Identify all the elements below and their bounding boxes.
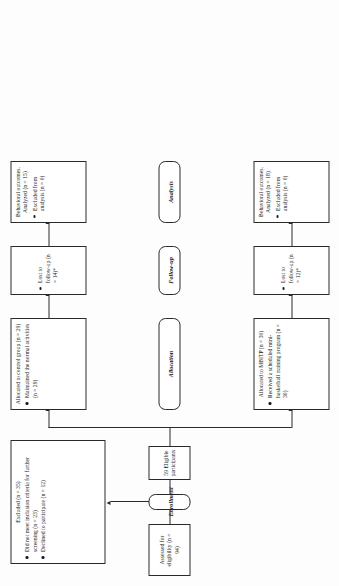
- list-item: Received a scheduled mini-basketball tra…: [266, 323, 288, 405]
- list-item: Maintained the normal activities (n = 29…: [23, 323, 38, 405]
- intervention-allocation-header: Allocated to MBITP (n = 30): [257, 323, 264, 405]
- stage-label-followup-text: Follow-up: [166, 257, 173, 283]
- box-assessed-for-eligibility: Assessed for eligibility (n = 94): [148, 524, 190, 576]
- control-allocation-list: Maintained the normal activities (n = 29…: [23, 323, 38, 405]
- connector-trunk-to-control: [48, 410, 49, 428]
- list-item: Did not meet inclusion criteria for furt…: [23, 445, 38, 559]
- intervention-analysis-header: Behavioral outcomes. Analyzed (n = 18): [257, 166, 272, 218]
- control-allocation-header: Allocated to control group (n = 29): [14, 323, 21, 405]
- box-control-analysis: Behavioral outcomes. Analyzed (n = 15) E…: [10, 161, 86, 223]
- stage-label-analysis-text: Analysis: [166, 181, 173, 203]
- list-item: Declined to participate (n = 12): [39, 445, 46, 559]
- connector-control-followup-to-analysis: [48, 223, 49, 246]
- stage-label-followup: Follow-up: [158, 246, 180, 295]
- list-item: Lost to follow-up (n = 14)*: [36, 251, 58, 290]
- connector-allocation-trunk: [48, 427, 291, 428]
- excluded-reason-list: Did not meet inclusion criteria for furt…: [23, 445, 46, 559]
- control-followup-list: Lost to follow-up (n = 14)*: [36, 251, 59, 290]
- list-item: Excluded from analysis (n = 0): [274, 166, 289, 218]
- connector-trunk-to-intervention: [291, 410, 292, 428]
- connector-intervention-alloc-to-followup: [291, 295, 292, 318]
- assessed-text: Assessed for eligibility (n = 94): [158, 529, 180, 571]
- box-intervention-analysis: Behavioral outcomes. Analyzed (n = 18) E…: [253, 161, 329, 223]
- stage-label-enrollment-text: Enrollment: [166, 487, 173, 516]
- control-analysis-list: Excluded from analysis (n = 0): [31, 166, 46, 218]
- stage-label-enrollment: Enrollment: [148, 494, 190, 510]
- box-eligible-participants: 59 Eligible participants: [148, 446, 190, 480]
- stage-label-analysis: Analysis: [158, 161, 180, 223]
- connector-control-alloc-to-followup: [48, 295, 49, 318]
- intervention-followup-list: Lost to follow-up (n = 12)*: [279, 251, 302, 290]
- intervention-analysis-list: Excluded from analysis (n = 0): [274, 166, 289, 218]
- consort-flow-diagram: Assessed for eligibility (n = 94) Enroll…: [0, 0, 339, 586]
- box-control-followup: Lost to follow-up (n = 14)*: [10, 246, 86, 295]
- box-control-allocation: Allocated to control group (n = 29) Main…: [10, 318, 86, 410]
- connector-intervention-followup-to-analysis: [291, 223, 292, 246]
- connector-eligible-to-trunk: [169, 428, 170, 446]
- list-item: Lost to follow-up (n = 12)*: [279, 251, 301, 290]
- excluded-header: Excluded (n = 35): [14, 445, 21, 559]
- arrowhead-to-excluded: [106, 501, 110, 505]
- list-item: Excluded from analysis (n = 0): [31, 166, 46, 218]
- box-excluded: Excluded (n = 35) Did not meet inclusion…: [10, 440, 105, 564]
- diagram-page: Assessed for eligibility (n = 94) Enroll…: [0, 0, 339, 586]
- intervention-allocation-list: Received a scheduled mini-basketball tra…: [266, 323, 288, 405]
- stage-label-allocation: Allocation: [158, 318, 180, 410]
- box-intervention-allocation: Allocated to MBITP (n = 30) Received a s…: [253, 318, 329, 410]
- box-intervention-followup: Lost to follow-up (n = 12)*: [253, 246, 329, 295]
- control-analysis-header: Behavioral outcomes. Analyzed (n = 15): [14, 166, 29, 218]
- stage-label-allocation-text: Allocation: [166, 351, 173, 377]
- eligible-text: 59 Eligible participants: [162, 450, 177, 477]
